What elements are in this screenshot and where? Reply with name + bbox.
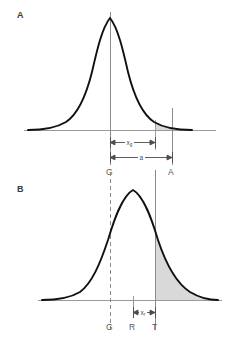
panel-b-curve [42,190,218,300]
panel-b-axis-label-G: G [106,322,113,332]
panel-a-label-a: a [138,154,145,161]
panel-b-shaded-tail [155,170,225,300]
panel-b: B xr G [0,170,240,341]
panel-b-axis-label-R: R [129,322,135,332]
panel-b-axis-label-T: T [152,322,158,332]
panel-a: A [0,0,240,180]
panel-a-plot [0,0,240,180]
panel-a-shaded-tail [155,0,172,130]
panel-b-label-xr: xr [139,309,147,317]
panel-a-label-xg: xg [125,139,134,147]
panel-b-plot [0,170,240,341]
